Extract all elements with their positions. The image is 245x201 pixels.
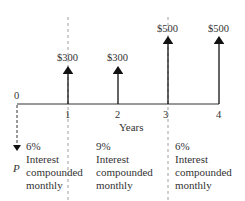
present-value-label: P: [13, 162, 20, 175]
tick-label-3: 3: [163, 108, 168, 121]
period-3-line2: compounded: [175, 166, 232, 179]
period-3-rate: 6%: [175, 140, 190, 153]
axis-label-years: Years: [119, 121, 144, 134]
cash-flow-label-year-2: $300: [107, 51, 128, 64]
cash-flow-label-year-1: $300: [57, 51, 78, 64]
tick-label-4: 4: [216, 108, 221, 121]
period-1-line2: compounded: [26, 166, 83, 179]
period-2-line2: compounded: [96, 166, 153, 179]
period-3-line3: monthly: [175, 179, 212, 192]
cash-flow-label-year-4: $500: [208, 22, 229, 35]
tick-label-1: 1: [65, 108, 70, 121]
period-1-line1: Interest: [26, 153, 59, 166]
tick-label-2: 2: [115, 108, 120, 121]
period-2-line1: Interest: [96, 153, 129, 166]
period-2-rate: 9%: [96, 140, 111, 153]
origin-label: 0: [14, 89, 19, 102]
period-1-line3: monthly: [26, 179, 63, 192]
period-2-line3: monthly: [96, 179, 133, 192]
period-1-rate: 6%: [26, 140, 41, 153]
period-3-line1: Interest: [175, 153, 208, 166]
cash-flow-label-year-3: $500: [157, 22, 178, 35]
